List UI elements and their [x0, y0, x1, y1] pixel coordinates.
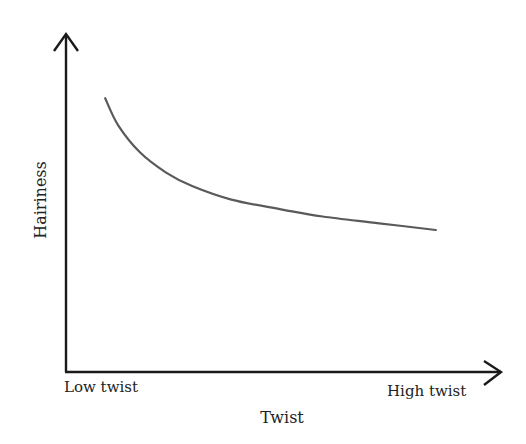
- x-axis-label: Twist: [260, 408, 304, 427]
- hairiness-twist-chart: Low twist High twist Twist Hairiness: [0, 0, 526, 444]
- y-axis-label: Hairiness: [31, 161, 50, 239]
- x-tick-label-high: High twist: [387, 382, 466, 400]
- x-tick-label-low: Low twist: [64, 378, 138, 396]
- hairiness-curve: [105, 98, 436, 230]
